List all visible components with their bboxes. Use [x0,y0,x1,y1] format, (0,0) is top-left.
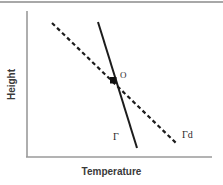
plot-canvas [0,0,223,185]
lapse-rate-diagram: Height Temperature Γ Γd O [0,0,223,185]
x-axis-label: Temperature [0,166,223,177]
curve-label-gamma-d: Γd [182,129,193,140]
curve-label-gamma: Γ [113,131,119,142]
curve-gamma-solid [98,22,137,148]
origin-point-marker [110,77,117,84]
origin-point-label: O [120,70,127,80]
y-axis-label: Height [6,57,17,113]
